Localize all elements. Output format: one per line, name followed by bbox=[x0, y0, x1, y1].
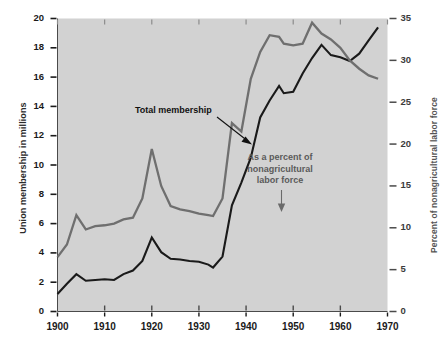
x-axis-tick-label: 1930 bbox=[179, 321, 219, 332]
chart-root: Union membership in millions Percent of … bbox=[0, 0, 445, 362]
y-axis-left-tick-label: 4 bbox=[14, 246, 44, 257]
plot-background bbox=[58, 19, 388, 312]
y-axis-right-tick-label: 30 bbox=[401, 54, 423, 65]
x-axis-tick-label: 1970 bbox=[368, 321, 408, 332]
annotation-percent-line-1: As a percent of bbox=[228, 152, 332, 164]
y-axis-left-tick-label: 2 bbox=[14, 276, 44, 287]
y-axis-left-tick-label: 14 bbox=[14, 100, 44, 111]
y-axis-right-tick-label: 5 bbox=[401, 263, 423, 274]
annotation-total-membership-line-1: Total membership bbox=[135, 105, 212, 117]
chart-plot-area bbox=[0, 0, 445, 362]
x-axis-tick-label: 1940 bbox=[226, 321, 266, 332]
y-axis-left-tick-label: 0 bbox=[14, 305, 44, 316]
y-axis-right-tick-label: 10 bbox=[401, 221, 423, 232]
x-axis-tick-label: 1900 bbox=[38, 321, 78, 332]
y-axis-right-tick-label: 35 bbox=[401, 12, 423, 23]
y-axis-left-tick-label: 16 bbox=[14, 71, 44, 82]
annotation-total-membership: Total membership bbox=[135, 105, 212, 117]
x-axis-tick-label: 1950 bbox=[273, 321, 313, 332]
y-axis-right-tick-label: 20 bbox=[401, 138, 423, 149]
x-axis-tick-label: 1960 bbox=[320, 321, 360, 332]
y-axis-left-tick-label: 6 bbox=[14, 217, 44, 228]
y-axis-left-tick-label: 10 bbox=[14, 159, 44, 170]
y-axis-left-tick-label: 12 bbox=[14, 129, 44, 140]
y-axis-left-tick-label: 18 bbox=[14, 41, 44, 52]
annotation-percent-line-3: labor force bbox=[228, 175, 332, 187]
y-axis-left-tick-label: 8 bbox=[14, 188, 44, 199]
y-axis-right-tick-label: 25 bbox=[401, 96, 423, 107]
x-axis-tick-label: 1920 bbox=[132, 321, 172, 332]
annotation-percent-line-2: nonagricultural bbox=[228, 164, 332, 176]
y-axis-left-tick-label: 20 bbox=[14, 12, 44, 23]
y-axis-right-tick-label: 0 bbox=[401, 305, 423, 316]
x-axis-tick-label: 1910 bbox=[85, 321, 125, 332]
annotation-percent-nonagricultural: As a percent of nonagricultural labor fo… bbox=[228, 152, 332, 187]
y-axis-right-tick-label: 15 bbox=[401, 179, 423, 190]
